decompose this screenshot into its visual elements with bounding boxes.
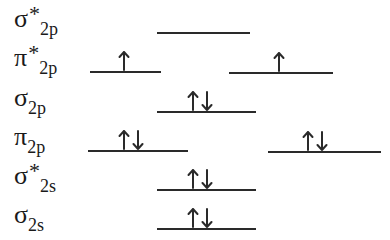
label-sigma-2p: σ2p	[14, 85, 46, 111]
spin-down-arrow-icon	[132, 129, 144, 150]
orbital-level-pi-star-2p-2	[229, 72, 333, 74]
antibonding-star: *	[29, 1, 40, 26]
orbital-level-sigma-star-2p	[157, 32, 250, 34]
orbital-level-pi-2p-1	[88, 150, 188, 152]
spin-up-arrow-icon	[187, 90, 199, 111]
electron-pair	[118, 50, 130, 71]
electron-pair	[187, 207, 213, 228]
orbital-subscript: 2p	[39, 58, 57, 78]
orbital-symbol: σ	[14, 200, 28, 229]
orbital-level-pi-2p-2	[268, 151, 381, 153]
orbital-level-sigma-2s	[157, 228, 256, 230]
orbital-subscript: 2p	[27, 137, 45, 157]
electron-pair	[118, 129, 144, 150]
antibonding-star: *	[28, 40, 39, 65]
orbital-symbol: σ	[14, 83, 28, 112]
label-sigma-star-2s: σ*2s	[14, 163, 56, 189]
orbital-subscript: 2p	[28, 98, 46, 118]
spin-down-arrow-icon	[201, 90, 213, 111]
label-pi-2p: π2p	[14, 124, 45, 150]
label-sigma-2s: σ2s	[14, 202, 44, 228]
spin-up-arrow-icon	[187, 168, 199, 189]
spin-up-arrow-icon	[273, 51, 285, 72]
electron-pair	[187, 168, 213, 189]
spin-up-arrow-icon	[302, 130, 314, 151]
orbital-level-sigma-2p	[157, 111, 256, 113]
orbital-subscript: 2p	[40, 19, 58, 39]
spin-down-arrow-icon	[201, 207, 213, 228]
electron-pair	[187, 90, 213, 111]
label-pi-star-2p: π*2p	[14, 45, 57, 71]
spin-up-arrow-icon	[118, 129, 130, 150]
orbital-subscript: 2s	[28, 215, 44, 235]
label-sigma-star-2p: σ*2p	[14, 6, 58, 32]
spin-up-arrow-icon	[187, 207, 199, 228]
orbital-symbol: π	[14, 122, 27, 151]
electron-pair	[302, 130, 328, 151]
orbital-symbol: π	[14, 43, 27, 72]
orbital-symbol: σ	[14, 161, 28, 190]
spin-down-arrow-icon	[316, 130, 328, 151]
spin-up-arrow-icon	[118, 50, 130, 71]
orbital-symbol: σ	[14, 4, 28, 33]
orbital-level-sigma-star-2s	[157, 189, 256, 191]
electron-pair	[273, 51, 285, 72]
orbital-level-pi-star-2p-1	[90, 71, 161, 73]
orbital-subscript: 2s	[40, 176, 56, 196]
antibonding-star: *	[29, 158, 40, 183]
spin-down-arrow-icon	[201, 168, 213, 189]
